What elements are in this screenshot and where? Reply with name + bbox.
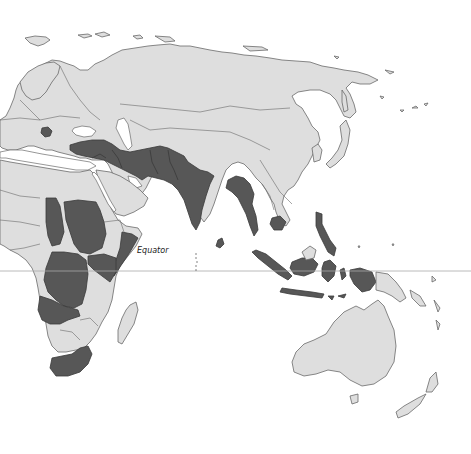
equator-label: Equator <box>137 246 168 255</box>
madagascar <box>118 302 138 344</box>
korea <box>312 144 322 162</box>
region-philippines <box>316 212 336 256</box>
region-sri-lanka <box>216 238 224 248</box>
japan <box>326 120 350 168</box>
region-myanmar-bangladesh <box>226 176 258 236</box>
maldives <box>195 253 197 270</box>
tasmania <box>350 394 358 404</box>
new-zealand-north <box>426 372 438 392</box>
papua-new-guinea <box>376 272 406 302</box>
australia <box>292 300 396 386</box>
world-map <box>0 0 471 454</box>
new-zealand-south <box>396 394 426 418</box>
